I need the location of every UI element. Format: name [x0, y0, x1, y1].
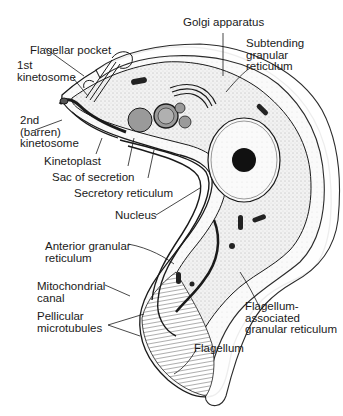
label-nucleus: Nucleus [115, 210, 157, 222]
label-mitochondrial-canal: Mitochondrial canal [37, 281, 105, 304]
label-flagellum: Flagellum [194, 343, 244, 355]
label-second-kinetosome: 2nd (barren) kinetosome [20, 115, 79, 150]
label-subtending-granular-reticulum: Subtending granular reticulum [246, 38, 304, 73]
label-first-kinetosome: 1st kinetosome [17, 60, 76, 83]
label-pellicular-microtubules: Pellicular microtubules [37, 311, 102, 334]
label-secretory-reticulum: Secretory reticulum [74, 188, 173, 200]
label-anterior-granular-reticulum: Anterior granular reticulum [45, 241, 131, 264]
nucleus-shape [208, 118, 280, 202]
label-flagellar-pocket: Flagellar pocket [30, 45, 111, 57]
label-golgi-apparatus: Golgi apparatus [183, 17, 264, 29]
label-sac-of-secretion: Sac of secretion [52, 172, 134, 184]
label-kinetoplast: Kinetoplast [44, 156, 101, 168]
label-flagellum-associated-granular-reticulum: Flagellum- associated granular reticulum [245, 301, 337, 336]
